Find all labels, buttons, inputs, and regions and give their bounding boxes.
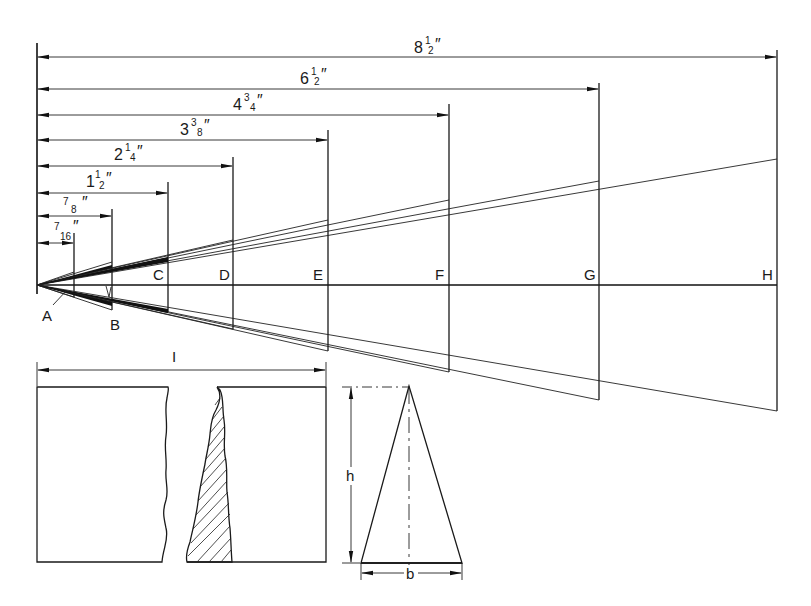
dimension-lines bbox=[38, 57, 776, 243]
technical-drawing: A B C D E F G H 8 1 2 ″ 6 1 2 ″ 4 3 4 ″ … bbox=[0, 0, 811, 606]
point-label-A: A bbox=[42, 307, 52, 324]
svg-text:8: 8 bbox=[414, 39, 423, 56]
base-label: b bbox=[406, 565, 414, 582]
svg-text:2: 2 bbox=[314, 76, 320, 87]
svg-text:4: 4 bbox=[233, 96, 242, 113]
dimension-label-6-1-2: 6 1 2 ″ bbox=[300, 66, 327, 87]
section-view: I bbox=[37, 348, 326, 562]
svg-text:″: ″ bbox=[257, 92, 263, 109]
svg-text:3: 3 bbox=[180, 121, 189, 138]
dimension-label-7-16: 7 16 ″ bbox=[54, 218, 79, 242]
point-label-H: H bbox=[762, 266, 773, 283]
dimension-label-1-1-2: 1 1 2 ″ bbox=[86, 169, 112, 191]
cone-construction: A B C D E F G H bbox=[37, 43, 777, 411]
svg-text:6: 6 bbox=[300, 70, 309, 87]
tick-mark-B bbox=[106, 286, 111, 297]
dimension-label-8-1-2: 8 1 2 ″ bbox=[414, 35, 441, 56]
svg-text:2: 2 bbox=[428, 45, 434, 56]
point-label-E: E bbox=[313, 266, 323, 283]
svg-text:″: ″ bbox=[435, 36, 441, 53]
point-label-D: D bbox=[219, 266, 230, 283]
point-label-B: B bbox=[110, 316, 120, 333]
dimension-label-4-3-4: 4 3 4 ″ bbox=[233, 92, 263, 113]
left-block bbox=[37, 387, 168, 562]
svg-text:8: 8 bbox=[197, 127, 203, 138]
upper-rays bbox=[37, 159, 777, 285]
svg-text:″: ″ bbox=[137, 143, 143, 160]
svg-text:″: ″ bbox=[106, 170, 112, 187]
svg-text:4: 4 bbox=[130, 152, 136, 163]
svg-text:16: 16 bbox=[60, 231, 72, 242]
section-width-label: I bbox=[172, 348, 176, 365]
point-label-F: F bbox=[435, 266, 444, 283]
svg-text:″: ″ bbox=[321, 66, 327, 83]
svg-text:″: ″ bbox=[204, 117, 210, 134]
svg-text:1: 1 bbox=[86, 173, 95, 190]
svg-text:″: ″ bbox=[73, 218, 79, 235]
svg-text:2: 2 bbox=[114, 146, 123, 163]
svg-text:7: 7 bbox=[63, 196, 69, 207]
hatched-section bbox=[187, 387, 232, 562]
svg-text:2: 2 bbox=[99, 180, 105, 191]
dimension-label-3-3-8: 3 3 8 ″ bbox=[180, 117, 210, 138]
triangle-outline bbox=[361, 386, 462, 563]
height-label: h bbox=[346, 467, 354, 484]
triangle-view: h b bbox=[342, 386, 462, 582]
svg-text:4: 4 bbox=[250, 102, 256, 113]
svg-text:1: 1 bbox=[95, 169, 101, 180]
dimension-label-2-1-4: 2 1 4 ″ bbox=[114, 142, 143, 163]
svg-text:″: ″ bbox=[82, 194, 88, 211]
point-label-C: C bbox=[153, 266, 164, 283]
point-label-G: G bbox=[584, 266, 596, 283]
dimension-label-7-8: 7 8 ″ bbox=[63, 194, 88, 215]
svg-text:8: 8 bbox=[71, 204, 77, 215]
